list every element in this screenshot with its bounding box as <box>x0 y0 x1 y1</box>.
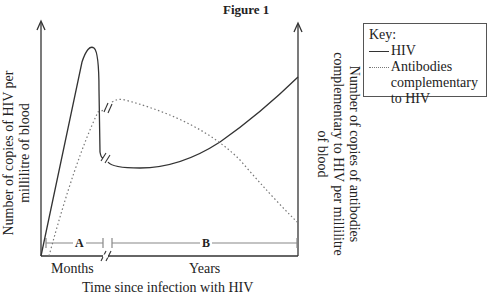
antibody-line-b <box>112 99 297 222</box>
dotted-line-icon <box>369 67 389 68</box>
y-axis-left-label: Number of copies of HIV per millilitre o… <box>1 58 33 248</box>
legend-title: Key: <box>369 27 486 43</box>
x-years-label: Years <box>189 261 220 277</box>
period-b-label: B <box>200 236 212 251</box>
period-a-label: A <box>73 236 86 251</box>
x-months-label: Months <box>51 261 94 277</box>
antibody-break-icon <box>104 103 112 113</box>
hiv-line <box>41 47 103 256</box>
axes <box>37 21 302 256</box>
legend-item-hiv: HIV <box>369 43 486 59</box>
hiv-break-icon <box>101 153 110 163</box>
x-axis-label: Time since infection with HIV <box>82 280 253 296</box>
y-axis-right-label: Number of copies of antibodies complemen… <box>314 48 362 260</box>
solid-line-icon <box>369 51 389 52</box>
legend: Key: HIV Antibodies complementary to HIV <box>363 23 487 97</box>
legend-item-antibodies: Antibodies complementary to HIV <box>369 59 486 107</box>
antibody-line <box>49 110 104 256</box>
hiv-line-b <box>108 77 298 168</box>
